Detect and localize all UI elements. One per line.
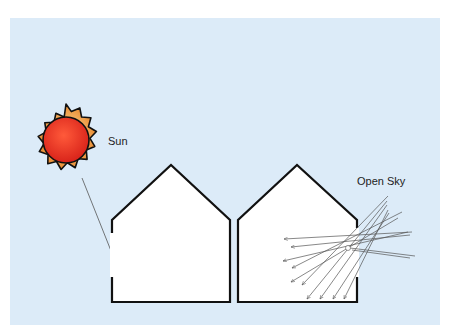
right-house (238, 165, 359, 302)
daylight-diagram (0, 0, 455, 325)
sun-label: Sun (108, 135, 128, 147)
sun-icon (38, 104, 96, 170)
left-house (110, 165, 230, 302)
open-sky-label: Open Sky (357, 175, 405, 187)
